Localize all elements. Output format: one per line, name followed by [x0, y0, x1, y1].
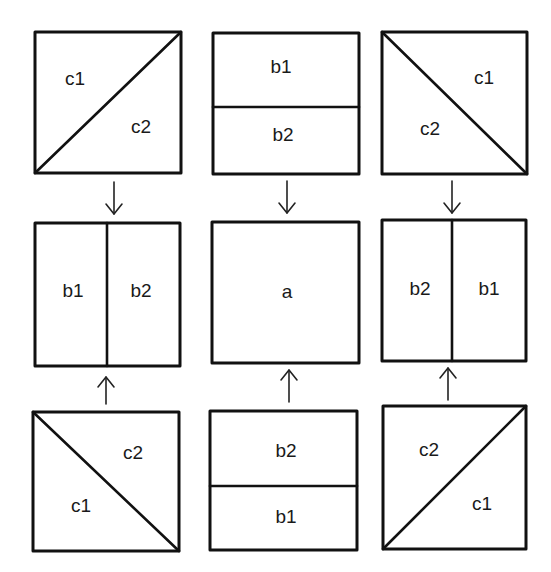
- piece-label-c1: c1: [65, 68, 85, 89]
- piece-label-c1: c1: [472, 493, 492, 514]
- arrow-down-icon: [444, 181, 460, 213]
- panel-bottom-left: c2c1: [33, 412, 179, 551]
- panel-divider-diagonal-down: [33, 412, 179, 551]
- panel-divider-diagonal-up: [35, 32, 181, 173]
- piece-label-b2: b2: [275, 440, 296, 461]
- piece-label-c2: c2: [131, 116, 151, 137]
- panel-top-center: b1b2: [213, 33, 359, 174]
- panel-frame: [382, 220, 526, 361]
- piece-label-c1: c1: [71, 495, 91, 516]
- panel-middle-center: a: [212, 222, 359, 363]
- panel-frame: [210, 411, 357, 550]
- piece-label-c2: c2: [419, 439, 439, 460]
- piece-label-c2: c2: [420, 118, 440, 139]
- arrow-up-icon: [98, 377, 114, 404]
- piece-combination-diagram: c1c2b1b2c1c2b1b2ab2b1c2c1b2b1c2c1: [0, 0, 551, 572]
- piece-label-b1: b1: [478, 278, 499, 299]
- piece-label-c1: c1: [474, 67, 494, 88]
- piece-label-b2: b2: [272, 124, 293, 145]
- panel-middle-left: b1b2: [35, 223, 180, 366]
- panels-layer: c1c2b1b2c1c2b1b2ab2b1c2c1b2b1c2c1: [33, 32, 527, 551]
- piece-label-c2: c2: [123, 442, 143, 463]
- piece-label-b2: b2: [409, 278, 430, 299]
- piece-label-b1: b1: [62, 280, 83, 301]
- arrow-up-icon: [440, 368, 456, 400]
- arrows-layer: [98, 181, 460, 404]
- panel-top-right: c1c2: [382, 32, 527, 174]
- arrow-up-icon: [281, 370, 297, 402]
- piece-label-b1: b1: [275, 506, 296, 527]
- panel-bottom-center: b2b1: [210, 411, 357, 550]
- piece-label-a: a: [282, 281, 293, 302]
- piece-label-b1: b1: [270, 56, 291, 77]
- panel-middle-right: b2b1: [382, 220, 526, 361]
- panel-frame: [213, 33, 359, 174]
- panel-bottom-right: c2c1: [383, 406, 526, 549]
- arrow-down-icon: [106, 182, 122, 214]
- piece-label-b2: b2: [130, 280, 151, 301]
- panel-divider-diagonal-down: [382, 32, 527, 174]
- panel-top-left: c1c2: [35, 32, 181, 173]
- panel-divider-diagonal-up: [383, 406, 526, 549]
- arrow-down-icon: [279, 181, 295, 213]
